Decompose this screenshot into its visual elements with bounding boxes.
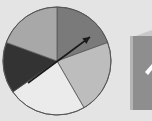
number-cube xyxy=(130,30,152,110)
cube-edge-highlight xyxy=(130,36,133,110)
figure xyxy=(0,0,152,121)
spinner xyxy=(3,7,111,115)
spinner-and-cube-figure xyxy=(0,0,152,121)
